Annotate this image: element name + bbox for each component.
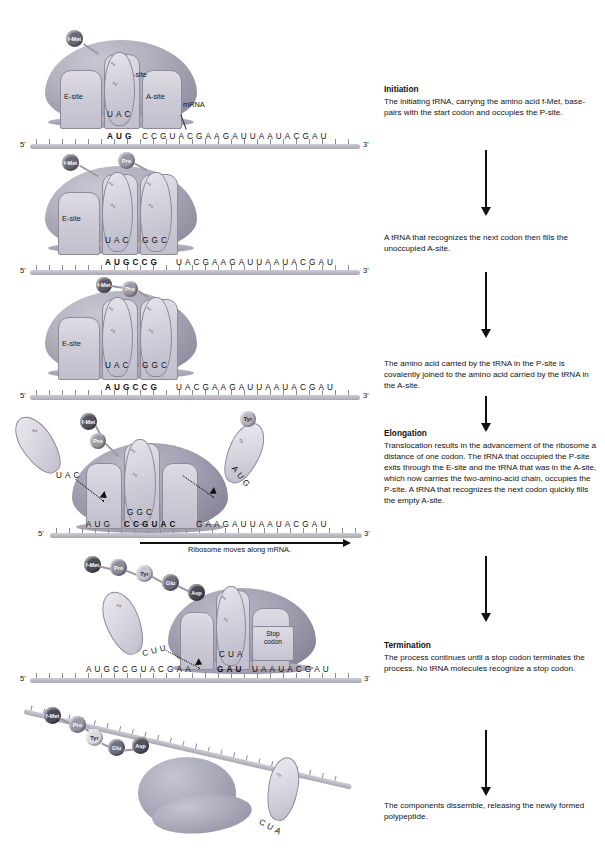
ribosome-movement-arrow [140,542,344,544]
mrna-sequence-left: AUG [86,520,113,529]
panel-a-site-filled: E-site ∿ ∿ ∿ ∿ f-Met Pro UAC GGC AUGCCG … [0,150,380,260]
step-descriptions: Initiation The initiating tRNA, carrying… [384,0,602,858]
mrna-tick [75,390,76,395]
step-heading: Initiation [384,84,598,95]
mrna-tick [101,390,102,395]
trna-helix-icon: ∿ [130,447,136,455]
mrna-tick [119,726,121,731]
five-prime-label: 5' [20,391,26,400]
mrna-tick [75,139,76,144]
mrna-tick [258,758,260,763]
mrna-tick [166,265,167,270]
mrna-strand [30,144,360,149]
step-text: A tRNA that recognizes the next codon th… [384,233,568,253]
flow-arrow [485,730,487,788]
anticodon-p-site: CUA [219,650,246,659]
mrna-strand [50,533,362,538]
trna-helix-icon: ∿ [148,202,154,210]
amino-acid-glu: Glu [162,574,179,591]
mrna-tick [335,673,336,678]
amino-acid-tyr: Tyr [136,565,153,582]
trna-helix-icon: ∿ [110,60,116,68]
step-text: The amino acid carried by the tRNA in th… [384,359,589,390]
mrna-tick [335,139,336,144]
mrna-tick [88,139,89,144]
amino-acid-fmet: f-Met [80,413,97,430]
amino-acid-asp: Asp [188,584,205,601]
trna-helix-icon: ∿ [108,180,114,188]
amino-acid-fmet: f-Met [62,154,79,171]
mrna-tick [348,390,349,395]
mrna-codon-bold: GAU [217,665,245,674]
anticodon-p-site: UAC [105,361,132,370]
step-text: The initiating tRNA, carrying the amino … [384,97,585,117]
mrna-tick [88,265,89,270]
mrna-tick [101,139,102,144]
mrna-sequence: UACGAAGAUUAAUACGAU [176,383,336,392]
trna-helix-icon: ∿ [112,80,118,88]
mrna-tick [220,749,222,754]
trna-helix-icon: ∿ [132,471,138,479]
mrna-tick [36,390,37,395]
mrna-tick [166,390,167,395]
mrna-tick [88,390,89,395]
trna-helix-icon: ∿ [146,180,152,188]
anticodon-p-site: UAC [105,236,132,245]
mrna-tick [186,528,187,533]
amino-acid-pro: Pro [118,152,135,169]
trna-helix-icon: ∿ [221,594,227,602]
mrna-label: mRNA [183,100,205,109]
mrna-tick [121,528,122,533]
mrna-tick [36,265,37,270]
three-prime-label: 3' [363,391,369,400]
panel-peptide-bond: E-site ∿ ∿ ∿ ∿ f-Met Pro UAC GGC AUGCCG … [0,275,380,385]
mrna-tick [49,139,50,144]
step-text: Translocation results in the advancement… [384,441,596,505]
mrna-tick [62,673,63,678]
mrna-tick [144,732,146,737]
amino-acid-pro: Pro [122,281,138,297]
mrna-codon-bold: AUGCCG [105,258,160,267]
step-heading: Elongation [384,428,598,439]
step-text: The process continues until a stop codon… [384,653,585,673]
mrna-tick [342,528,343,533]
amino-acid-tyr: Tyr [240,411,256,427]
mrna-tick [82,528,83,533]
flow-arrow [485,150,487,208]
mrna-sequence: CCGUACGAAGAUUAAUACGAU [142,132,329,141]
mrna-tick [62,139,63,144]
amino-acid-fmet: f-Met [66,30,83,47]
step-text: The components dissemble, releasing the … [384,801,584,821]
three-prime-label: 3' [364,674,370,683]
panel-elongation: ∿ ∿ ∿ ∿ f-Met Pro Tyr UAC GGC AUG AUG CC… [0,405,380,545]
step-initiation: Initiation The initiating tRNA, carrying… [384,84,598,118]
mrna-tick [195,744,197,749]
mrna-tick [157,735,159,740]
anticodon-exiting: UAC [56,471,83,480]
trna-helix-icon: ∿ [148,327,154,335]
flow-arrow [485,272,487,330]
mrna-codon-bold: CCGUAC [124,520,179,529]
mrna-tick [75,265,76,270]
mrna-tick [106,723,108,728]
e-site-label: E-site [62,214,81,223]
mrna-tick [348,673,349,678]
step-peptide-bond: The amino acid carried by the tRNA in th… [384,358,598,391]
e-site-pocket [58,192,100,255]
mrna-tick [233,752,235,757]
trna-exiting-e-site [7,410,69,481]
trna-helix-icon: ∿ [223,616,229,624]
mrna-tick [49,673,50,678]
mrna-tick [36,139,37,144]
e-site-pocket [58,317,100,380]
mrna-tick [334,776,336,781]
mrna-tick [355,528,356,533]
mrna-tick [75,673,76,678]
amino-acid-fmet: f-Met [96,277,112,293]
mrna-sequence: UACGAAGAUUAAUACGAU [176,258,336,267]
three-prime-label: 3' [363,266,369,275]
mrna-strand [30,678,362,683]
panel-termination: ∿ ∿ ∿ Stop codon f-Met Pro Tyr Glu Asp C… [0,550,380,685]
mrna-tick [49,265,50,270]
mrna-tick [56,528,57,533]
